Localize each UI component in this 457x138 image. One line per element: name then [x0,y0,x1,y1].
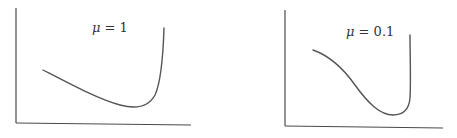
x-axis-left [16,123,191,125]
plot-mu-0-1: μ = 0.1 [285,10,443,128]
label-mu-0-1: μ = 0.1 [346,24,394,39]
label-mu-1: μ = 1 [92,20,128,35]
figure: μ = 1 μ = 0.1 [0,0,457,138]
plot-mu-1: μ = 1 [16,8,191,125]
x-axis-right [285,126,443,128]
curve-mu-1 [43,28,164,107]
curve-mu-0-1 [313,35,410,115]
